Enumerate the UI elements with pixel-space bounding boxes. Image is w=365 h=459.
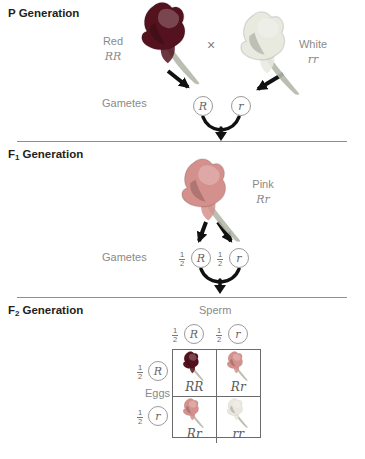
egg-gamete-R-fraction: 1 2 xyxy=(137,364,143,382)
sperm-allele-R: R xyxy=(190,328,198,341)
cell-pink-flower-image xyxy=(179,398,209,428)
sperm-gamete-r-fraction: 1 2 xyxy=(216,327,222,345)
f1-gamete-allele-r: r xyxy=(236,252,241,265)
p-title-letter: P xyxy=(8,7,16,19)
red-flower-image xyxy=(126,1,218,85)
punnett-cell-RR: RR xyxy=(173,350,217,397)
p-generation-title: PGeneration xyxy=(8,7,79,19)
cell-genotype-Rr-top: Rr xyxy=(231,381,246,396)
p-gamete-allele-r: r xyxy=(238,100,243,113)
f1-gamete-r-fraction: 1 2 xyxy=(217,251,223,269)
cell-genotype-RR: RR xyxy=(185,381,203,396)
sperm-gamete-circle-R: R xyxy=(184,324,204,344)
p-gamete-circle-R: R xyxy=(193,96,213,116)
fraction-denominator: 2 xyxy=(217,336,221,344)
f1-generation-title: F1Generation xyxy=(8,148,83,162)
f1-gametes-label: Gametes xyxy=(102,251,147,263)
egg-allele-r: r xyxy=(155,410,160,423)
p-title-word: Generation xyxy=(19,7,80,19)
f1-gamete-circle-r: r xyxy=(229,248,249,268)
parent-white-genotype: rr xyxy=(308,53,319,66)
f1-gamete-circle-R: R xyxy=(191,248,211,268)
sperm-label: Sperm xyxy=(199,304,231,316)
f1-gamete-R-fraction: 1 2 xyxy=(179,251,185,269)
egg-gamete-circle-R: R xyxy=(148,361,168,381)
p-gamete-circle-r: r xyxy=(231,96,251,116)
cell-pink-flower-image xyxy=(223,351,253,381)
cell-red-flower-image xyxy=(179,351,209,381)
fraction-denominator: 2 xyxy=(173,336,177,344)
pink-flower-image xyxy=(170,154,255,246)
f1-gamete-merge-arrow xyxy=(201,269,239,294)
punnett-cell-rr: rr xyxy=(217,397,261,443)
p-gamete-allele-R: R xyxy=(199,100,207,113)
fraction-denominator: 2 xyxy=(180,260,184,268)
parent-red-label: Red RR xyxy=(96,34,130,65)
egg-gamete-circle-r: r xyxy=(148,406,168,426)
sperm-gamete-circle-r: r xyxy=(228,324,248,344)
sperm-allele-r: r xyxy=(235,328,240,341)
parent-red-phenotype: Red xyxy=(103,35,123,47)
fraction-denominator: 2 xyxy=(138,418,142,426)
f2-title-subscript: 2 xyxy=(15,309,19,318)
punnett-cell-Rr-bottom: Rr xyxy=(173,397,217,443)
egg-allele-R: R xyxy=(154,365,162,378)
fraction-denominator: 2 xyxy=(218,260,222,268)
cell-genotype-rr: rr xyxy=(233,428,244,443)
punnett-square: RR Rr Rr rr xyxy=(172,349,261,438)
eggs-label: Eggs xyxy=(136,387,170,399)
f1-offspring-label: Pink Rr xyxy=(244,177,282,208)
f1-title-word: Generation xyxy=(22,148,83,160)
f1-gamete-allele-R: R xyxy=(197,252,205,265)
f2-generation-title: F2Generation xyxy=(8,304,83,318)
parent-white-phenotype: White xyxy=(299,38,327,50)
parent-red-genotype: RR xyxy=(105,50,122,63)
section-divider-2 xyxy=(17,297,347,298)
cross-symbol: × xyxy=(207,37,215,53)
section-divider-1 xyxy=(17,141,347,142)
fraction-denominator: 2 xyxy=(138,373,142,381)
f2-title-word: Generation xyxy=(22,304,83,316)
cell-white-flower-image xyxy=(223,398,253,428)
f1-offspring-genotype: Rr xyxy=(256,193,270,206)
egg-gamete-r-fraction: 1 2 xyxy=(137,409,143,427)
sperm-gamete-R-fraction: 1 2 xyxy=(172,327,178,345)
f1-title-letter: F xyxy=(8,148,15,160)
p-gamete-merge-arrow xyxy=(203,117,239,141)
punnett-cell-Rr-top: Rr xyxy=(217,350,261,397)
parent-white-label: White rr xyxy=(294,37,332,68)
f2-title-letter: F xyxy=(8,304,15,316)
f1-title-subscript: 1 xyxy=(15,153,19,162)
p-gametes-label: Gametes xyxy=(102,97,147,109)
cell-genotype-Rr-bottom: Rr xyxy=(187,428,202,443)
incomplete-dominance-diagram: PGeneration Red RR × White rr Gametes R … xyxy=(0,0,365,459)
f1-offspring-phenotype: Pink xyxy=(252,178,273,190)
